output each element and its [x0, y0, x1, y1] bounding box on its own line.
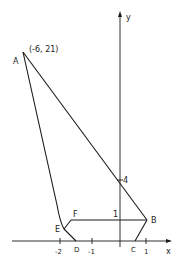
point-a-label: A: [13, 57, 19, 66]
y-axis-arrow-icon: [118, 11, 122, 17]
coordinate-diagram: y x A (-6, 21) 4 1 B F E D C -2 -1 1: [0, 0, 183, 267]
edge-b-c: [135, 220, 147, 241]
point-b-label: B: [151, 216, 157, 225]
mark-1-label: 1: [113, 210, 118, 219]
tick-label-neg2: -2: [55, 248, 62, 256]
edge-e-d: [64, 229, 76, 241]
point-a-coord-label: (-6, 21): [29, 45, 58, 54]
x-axis-arrow-icon: [166, 239, 172, 243]
x-axis-label: x: [166, 247, 171, 256]
point-c-label: C: [131, 246, 136, 254]
y4-label: 4: [123, 176, 128, 185]
point-f-label: F: [73, 210, 78, 219]
y-axis-label: y: [126, 13, 131, 22]
edge-e-f: [64, 220, 71, 229]
edge-a-e: [23, 52, 64, 229]
point-d-label: D: [74, 246, 79, 254]
tick-label-1: 1: [144, 248, 148, 256]
tick-label-neg1: -1: [88, 248, 95, 256]
point-e-label: E: [55, 225, 60, 234]
